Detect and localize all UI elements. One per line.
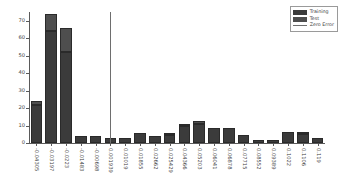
bar <box>179 124 191 143</box>
bar <box>149 136 161 143</box>
bar-segment-training <box>60 52 72 143</box>
bar <box>164 133 176 143</box>
x-tick-label: 0.06041 <box>211 148 216 169</box>
zero-error-line <box>110 12 111 143</box>
bar-group <box>29 12 325 143</box>
x-tick-mark <box>36 143 37 146</box>
bar-segment-training <box>223 128 235 143</box>
x-tick-mark <box>288 143 289 146</box>
x-tick-mark <box>140 143 141 146</box>
x-tick-label: 0.08552 <box>256 148 261 169</box>
x-tick-label: 0.05203 <box>197 148 202 169</box>
legend-swatch-icon <box>293 17 307 22</box>
x-tick-label: 0.07715 <box>241 148 246 169</box>
x-tick-mark <box>66 143 67 146</box>
x-tick-label: -0.00698 <box>93 148 98 171</box>
x-tick-mark <box>81 143 82 146</box>
y-tick-label: 30 <box>18 88 25 93</box>
bar <box>31 101 43 143</box>
bar <box>60 28 72 143</box>
bar <box>282 132 294 143</box>
x-tick-label: 0.02662 <box>152 148 157 169</box>
x-tick-label: 0.01855 <box>137 148 142 169</box>
x-tick-mark <box>199 143 200 146</box>
legend-item: Zero Error <box>293 23 334 29</box>
x-tick-mark <box>273 143 274 146</box>
legend-swatch-icon <box>293 10 307 15</box>
y-tick-label: 20 <box>18 105 25 110</box>
y-tick-label: 50 <box>18 53 25 58</box>
x-tick-mark <box>170 143 171 146</box>
x-axis-spine <box>29 143 325 144</box>
legend-label: Test <box>310 17 319 22</box>
x-tick-label: 0.1106 <box>300 148 305 166</box>
bar-segment-training <box>193 124 205 143</box>
bar <box>223 128 235 143</box>
x-tick-mark <box>214 143 215 146</box>
bar <box>297 132 309 143</box>
bar-segment-training <box>75 136 87 143</box>
legend-line-icon <box>293 23 307 28</box>
bar-segment-training <box>31 105 43 143</box>
x-tick-mark <box>258 143 259 146</box>
y-tick-label: 40 <box>18 71 25 76</box>
y-tick-label: 60 <box>18 36 25 41</box>
bar <box>90 136 102 143</box>
x-tick-label: 0.01019 <box>123 148 128 169</box>
x-tick-mark <box>303 143 304 146</box>
x-tick-label: -0.0223 <box>63 148 68 168</box>
legend-label: Training <box>310 10 329 15</box>
bar-segment-training <box>164 135 176 143</box>
x-tick-mark <box>155 143 156 146</box>
bar-segment-training <box>297 134 309 143</box>
plot-area: 010203040506070 -0.04305-0.03197-0.0223-… <box>29 12 325 144</box>
y-tick-label: 0 <box>22 140 25 145</box>
x-tick-label: 0.1022 <box>285 148 290 166</box>
x-tick-label: -0.03197 <box>49 148 54 171</box>
bar-segment-training <box>90 136 102 143</box>
x-tick-label: 0.001939 <box>108 148 113 173</box>
bar-segment-training <box>179 126 191 143</box>
x-tick-mark <box>244 143 245 146</box>
bar <box>193 121 205 143</box>
x-tick-mark <box>229 143 230 146</box>
legend-item: Training <box>293 10 334 16</box>
figure: 010203040506070 -0.04305-0.03197-0.0223-… <box>0 0 341 178</box>
y-tick-mark <box>26 143 29 144</box>
bar-segment-test <box>45 14 57 31</box>
bar-segment-training <box>45 31 57 143</box>
y-tick-label: 10 <box>18 123 25 128</box>
x-tick-label: 0.025429 <box>167 148 172 173</box>
bar <box>134 133 146 143</box>
x-tick-mark <box>110 143 111 146</box>
bar-segment-training <box>208 128 220 143</box>
x-tick-label: 0.04366 <box>182 148 187 169</box>
x-tick-label: -0.04305 <box>34 148 39 171</box>
bar-segment-training <box>282 132 294 143</box>
legend: TrainingTestZero Error <box>290 6 338 32</box>
bar <box>208 128 220 143</box>
x-tick-mark <box>184 143 185 146</box>
x-tick-label: -0.01483 <box>78 148 83 171</box>
x-tick-mark <box>125 143 126 146</box>
bar-segment-training <box>149 136 161 143</box>
x-tick-mark <box>96 143 97 146</box>
x-tick-mark <box>51 143 52 146</box>
y-tick-label: 70 <box>18 18 25 23</box>
bar <box>75 136 87 143</box>
x-tick-label: 0.09389 <box>271 148 276 169</box>
bar-segment-test <box>60 28 72 52</box>
bar-segment-training <box>238 135 250 143</box>
bar <box>238 135 250 143</box>
legend-label: Zero Error <box>310 23 334 28</box>
bar-segment-training <box>134 133 146 143</box>
x-tick-mark <box>318 143 319 146</box>
bar <box>45 14 57 143</box>
x-tick-label: 0.06878 <box>226 148 231 169</box>
x-tick-label: 0.119 <box>315 148 320 163</box>
legend-item: Test <box>293 16 334 22</box>
